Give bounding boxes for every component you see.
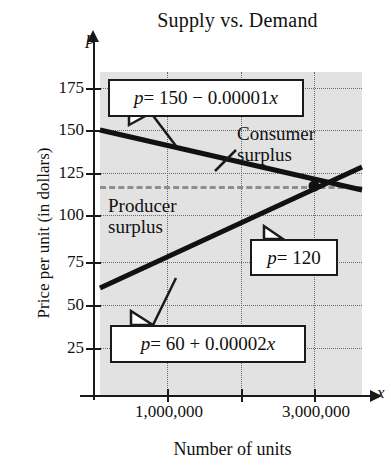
supply-equation-x: x <box>267 333 275 355</box>
price-level-callout-tail <box>264 226 283 239</box>
supply-callout-tail <box>131 311 153 325</box>
price-level-callout: p = 120 <box>250 239 338 276</box>
leader-line-layer <box>0 0 391 473</box>
demand-equation-body: = 150 − 0.00001 <box>144 87 270 109</box>
demand-leader-line <box>151 113 176 146</box>
price-level-variable: p <box>267 247 277 269</box>
demand-equation-variable: p <box>134 87 144 109</box>
chart-figure: Supply vs. Demand Price per unit (in dol… <box>0 0 391 473</box>
supply-leader-line <box>153 278 176 325</box>
demand-equation-x: x <box>270 87 278 109</box>
demand-equation-callout: p = 150 − 0.00001x <box>108 79 304 117</box>
consumer-surplus-leader-line <box>215 150 236 171</box>
supply-equation-callout: p = 60 + 0.00002x <box>110 325 306 363</box>
supply-equation-body: = 60 + 0.00002 <box>150 333 266 355</box>
price-level-body: = 120 <box>277 247 321 269</box>
supply-equation-variable: p <box>141 333 151 355</box>
